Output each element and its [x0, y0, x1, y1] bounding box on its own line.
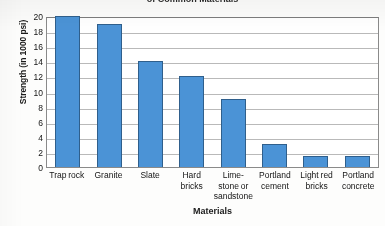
x-axis-tick-label: Granite — [88, 170, 129, 181]
y-axis-tick-label: 4 — [17, 134, 43, 142]
y-axis-tick-label: 8 — [17, 104, 43, 112]
x-axis-tick-label: Slate — [130, 170, 171, 181]
y-axis-tick-label: 20 — [17, 13, 43, 21]
y-axis-tick-label: 18 — [17, 28, 43, 36]
plot-area — [46, 17, 379, 168]
y-axis-tick-label: 14 — [17, 58, 43, 66]
x-axis-tick-label: Light red bricks — [296, 170, 337, 191]
x-axis-tick-labels: Trap rockGraniteSlateHard bricksLime- st… — [46, 170, 379, 204]
bar — [179, 76, 204, 167]
chart-title: of Common Materials — [0, 0, 385, 3]
y-axis-tick-labels: 02468101214161820 — [17, 17, 43, 168]
y-axis-tick-label: 0 — [17, 164, 43, 172]
bar-chart-figure: of Common Materials Strength (in 1000 ps… — [0, 0, 385, 226]
x-axis-tick-label: Trap rock — [46, 170, 87, 181]
bar — [55, 16, 80, 167]
bar — [138, 61, 163, 167]
y-axis-tick-label: 10 — [17, 89, 43, 97]
y-axis-tick-label: 6 — [17, 119, 43, 127]
y-axis-tick-label: 12 — [17, 73, 43, 81]
bar-series — [47, 18, 378, 167]
y-axis-tick-label: 16 — [17, 43, 43, 51]
bar — [262, 144, 287, 167]
x-axis-title: Materials — [46, 206, 379, 216]
x-axis-tick-label: Portland concrete — [338, 170, 379, 191]
bar — [221, 99, 246, 167]
y-axis-tick-label: 2 — [17, 149, 43, 157]
x-axis-tick-label: Lime- stone or sandstone — [213, 170, 254, 202]
bar — [97, 24, 122, 167]
bar — [345, 156, 370, 167]
bar — [303, 156, 328, 167]
x-axis-tick-label: Hard bricks — [171, 170, 212, 191]
x-axis-tick-label: Portland cement — [254, 170, 295, 191]
